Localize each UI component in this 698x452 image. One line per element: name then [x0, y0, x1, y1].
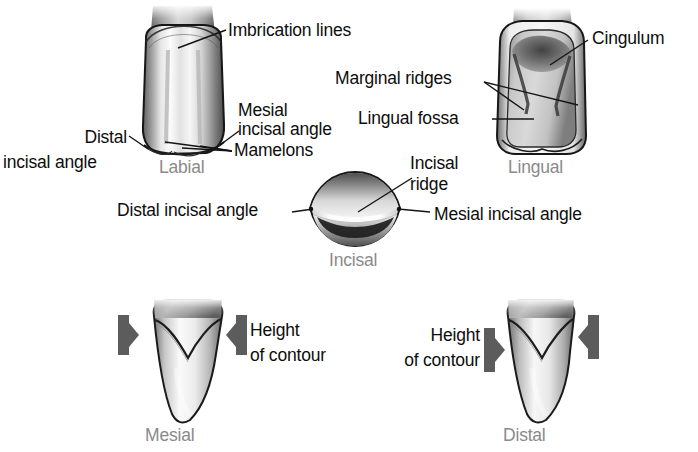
height-of-contour-marker-mesial-right	[236, 315, 247, 355]
view-label-mesial: Mesial	[145, 425, 194, 446]
annotation-height-of-contour-distal-line2: of contour	[366, 350, 480, 371]
height-of-contour-arrow-mesial-right	[226, 323, 236, 347]
annotation-height-of-contour-mesial-line2: of contour	[250, 345, 326, 366]
annotation-incisal-ridge-line2: ridge	[410, 174, 448, 195]
annotation-incisal-ridge-line1: Incisal	[410, 153, 458, 174]
height-of-contour-marker-mesial-left	[118, 315, 129, 355]
mesial-view-illustration	[146, 298, 230, 426]
annotation-distal-incisal-angle-incisal: Distal incisal angle	[117, 200, 258, 221]
height-of-contour-arrow-mesial-left	[129, 323, 139, 347]
height-of-contour-arrow-distal-left	[495, 338, 505, 362]
incisal-leader-lines	[0, 0, 698, 452]
annotation-mesial-incisal-angle-incisal: Mesial incisal angle	[434, 204, 582, 225]
tooth-anatomy-figure: Imbrication lines Mesial incisal angle M…	[0, 0, 698, 452]
view-label-incisal: Incisal	[329, 250, 377, 271]
annotation-height-of-contour-mesial-line1: Height	[250, 320, 299, 341]
height-of-contour-marker-distal-right	[588, 315, 599, 359]
annotation-height-of-contour-distal-line1: Height	[380, 325, 480, 346]
height-of-contour-marker-distal-left	[484, 328, 495, 372]
view-label-distal: Distal	[503, 425, 546, 446]
distal-view-illustration	[498, 298, 582, 426]
height-of-contour-arrow-distal-right	[578, 325, 588, 349]
